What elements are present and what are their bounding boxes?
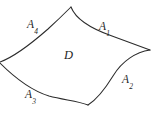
region-label-base: D [64, 48, 73, 62]
arc-label-a4-base: A [27, 18, 34, 30]
arc-label-a1: A1 [99, 17, 110, 36]
arc-label-a4: A4 [27, 15, 38, 34]
arc-a3-path [0, 63, 88, 105]
arc-label-a2: A2 [122, 70, 133, 89]
arc-label-a2-subscript: 2 [129, 82, 133, 91]
figure-container: A4 A1 A2 A3 D [0, 0, 154, 116]
arc-label-a1-subscript: 1 [106, 29, 110, 38]
arc-label-a1-base: A [99, 20, 106, 32]
region-boundary-diagram [0, 0, 154, 116]
arc-label-a3: A3 [25, 85, 36, 104]
region-interior-label: D [64, 49, 73, 62]
arc-label-a4-subscript: 4 [34, 27, 38, 36]
arc-label-a2-base: A [122, 73, 129, 85]
arc-a2-path [88, 50, 150, 105]
arc-label-a3-subscript: 3 [32, 97, 36, 106]
arc-a1-path [71, 7, 150, 50]
arc-label-a3-base: A [25, 88, 32, 100]
